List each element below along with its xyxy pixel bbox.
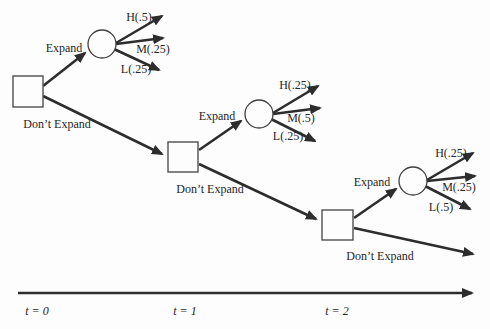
outcome-high-label: H(.25) xyxy=(435,146,467,160)
expand-label: Expand xyxy=(354,175,391,189)
decision-node xyxy=(13,76,43,107)
outcome-high-label: H(.5) xyxy=(126,10,152,24)
time-label-t0: t = 0 xyxy=(25,304,48,318)
decision-tree-figure: Expand Don’t Expand H(.5) M(.25) L(.25) … xyxy=(0,0,490,329)
expand-label: Expand xyxy=(46,41,83,55)
time-label-t2: t = 2 xyxy=(325,304,348,318)
decision-node xyxy=(168,142,198,172)
dont-expand-label: Don’t Expand xyxy=(23,117,90,131)
outcome-low-label: L(.5) xyxy=(429,200,453,214)
expand-branch-arrow xyxy=(354,189,396,218)
stage-1: Expand Don’t Expand H(.25) M(.5) L(.25) xyxy=(168,78,320,219)
timeline: t = 0 t = 1 t = 2 xyxy=(18,293,472,318)
outcome-low-label: L(.25) xyxy=(121,62,151,76)
outcome-medium-label: M(.5) xyxy=(287,111,315,125)
decision-tree-canvas: Expand Don’t Expand H(.5) M(.25) L(.25) … xyxy=(0,0,490,329)
outcome-low-label: L(.25) xyxy=(273,129,303,143)
expand-label: Expand xyxy=(199,109,236,123)
time-label-t1: t = 1 xyxy=(173,304,196,318)
dont-expand-label: Don’t Expand xyxy=(346,249,413,263)
decision-node xyxy=(322,210,353,240)
chance-node xyxy=(245,100,273,128)
outcome-high-label: H(.25) xyxy=(279,78,311,92)
expand-branch-arrow xyxy=(43,53,85,86)
outcome-medium-label: M(.25) xyxy=(442,180,476,194)
dont-expand-label: Don’t Expand xyxy=(176,182,243,196)
expand-branch-arrow xyxy=(199,121,241,150)
chance-node xyxy=(399,167,427,195)
outcome-medium-label: M(.25) xyxy=(136,42,170,56)
stage-2: Expand Don’t Expand H(.25) M(.25) L(.5) xyxy=(322,146,476,263)
stage-0: Expand Don’t Expand H(.5) M(.25) L(.25) xyxy=(13,10,170,154)
chance-node xyxy=(88,30,116,58)
